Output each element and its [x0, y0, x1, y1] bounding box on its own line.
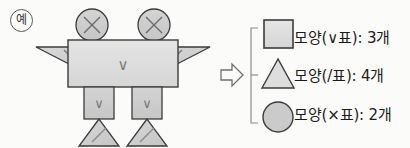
legend-triangle-icon [262, 59, 294, 88]
legend-square-icon [264, 20, 293, 48]
head-right [138, 9, 170, 41]
body-check-mark: ∨ [118, 56, 129, 74]
body: ∨ [68, 40, 178, 87]
head-left [76, 9, 108, 41]
legend-row-circle-label: 모양(×표): 2개 [294, 103, 392, 124]
foot-right-triangle [127, 119, 167, 146]
foot-left [79, 119, 119, 146]
diagram-canvas: 예 [0, 0, 410, 148]
bracket [251, 28, 258, 123]
leg-left-check-mark: ∨ [94, 96, 104, 111]
foot-left-triangle [79, 119, 119, 146]
legend-row-triangle-label: 모양(/표): 4개 [294, 64, 384, 85]
implies-arrow-icon [221, 64, 243, 86]
shape-figure: ∨ ∨ ∨ [28, 2, 218, 148]
leg-right: ∨ [132, 87, 162, 119]
foot-right [127, 119, 167, 146]
leg-right-check-mark: ∨ [142, 96, 152, 111]
legend-row-square-label: 모양(∨표): 3개 [294, 26, 390, 47]
legend-circle-icon [263, 102, 293, 132]
leg-left: ∨ [84, 87, 114, 119]
